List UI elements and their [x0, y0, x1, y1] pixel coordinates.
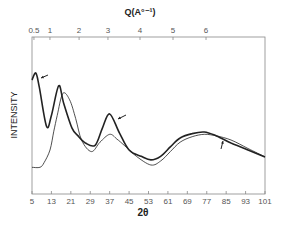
x-tick-label: 53	[144, 197, 153, 206]
bottom-axis-title: 2θ	[138, 207, 149, 218]
curve-arrows	[41, 75, 224, 149]
series-line-1	[32, 93, 265, 168]
q-tick-label: 5	[171, 26, 176, 35]
x-tick-label: 21	[66, 197, 75, 206]
x-tick-label: 29	[86, 197, 95, 206]
bottom-x-axis-ticks: 51321293745536169778593101	[30, 191, 272, 206]
q-tick-label: 2	[77, 26, 82, 35]
x-tick-label: 85	[222, 197, 231, 206]
top-axis-title: Q(A°⁻¹)	[124, 7, 155, 17]
x-tick-label: 5	[30, 197, 35, 206]
q-tick-label: 0.5	[28, 26, 40, 35]
x-tick-label: 13	[47, 197, 56, 206]
x-tick-label: 93	[241, 197, 250, 206]
top-q-axis-ticks: 0.5123456	[28, 26, 208, 40]
x-tick-label: 37	[105, 197, 114, 206]
data-series	[32, 73, 265, 168]
q-tick-label: 4	[138, 26, 143, 35]
x-tick-label: 101	[258, 197, 272, 206]
q-tick-label: 6	[204, 26, 209, 35]
x-tick-label: 69	[183, 197, 192, 206]
q-tick-label: 1	[48, 26, 53, 35]
series-line-0	[32, 73, 265, 160]
xrd-chart: 51321293745536169778593101 0.5123456 Q(A…	[0, 0, 281, 226]
x-tick-label: 61	[163, 197, 172, 206]
x-tick-label: 45	[125, 197, 134, 206]
y-axis-title: INTENSITY	[9, 91, 19, 138]
q-tick-label: 3	[106, 26, 111, 35]
x-tick-label: 77	[202, 197, 211, 206]
